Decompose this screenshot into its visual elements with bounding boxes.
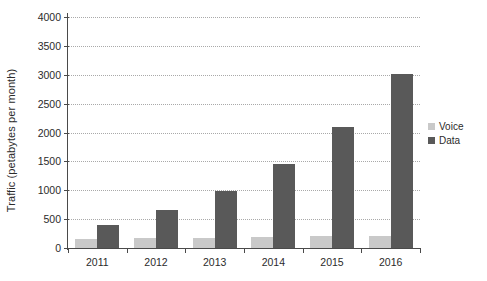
gridline: [68, 104, 420, 105]
gridline: [68, 133, 420, 134]
y-tick-mark: [64, 219, 69, 220]
y-tick-mark: [64, 104, 69, 105]
y-tick-mark: [64, 46, 69, 47]
x-tick-mark: [303, 248, 304, 253]
bar-voice-2015: [310, 236, 332, 248]
x-tick-mark: [420, 248, 421, 253]
legend-swatch-voice: [428, 123, 435, 130]
gridline: [68, 46, 420, 47]
y-tick-label: 2000: [38, 127, 61, 139]
y-tick-label: 1000: [38, 184, 61, 196]
y-tick-label: 0: [55, 242, 61, 254]
bar-data-2014: [273, 164, 295, 248]
legend-swatch-data: [428, 137, 435, 144]
x-tick-mark: [127, 248, 128, 253]
bar-data-2011: [97, 225, 119, 248]
x-tick-label-2013: 2013: [203, 256, 226, 268]
legend-label-data: Data: [439, 135, 460, 146]
y-tick-mark: [64, 75, 69, 76]
gridline: [68, 75, 420, 76]
legend-item-data: Data: [428, 133, 463, 147]
legend-item-voice: Voice: [428, 119, 463, 133]
y-tick-label: 3000: [38, 69, 61, 81]
bar-voice-2011: [75, 239, 97, 248]
y-tick-label: 4000: [38, 11, 61, 23]
y-axis-title: Traffic (petabytes per month): [0, 0, 22, 281]
y-tick-label: 500: [43, 213, 61, 225]
bar-data-2012: [156, 210, 178, 248]
x-tick-mark: [185, 248, 186, 253]
y-tick-mark: [64, 133, 69, 134]
legend-label-voice: Voice: [439, 121, 463, 132]
bar-voice-2012: [134, 238, 156, 248]
gridline: [68, 17, 420, 18]
y-tick-label: 1500: [38, 155, 61, 167]
bar-voice-2014: [251, 237, 273, 248]
chart-figure: Traffic (petabytes per month) 0500100015…: [0, 0, 487, 281]
x-tick-label-2011: 2011: [86, 256, 109, 268]
bar-data-2015: [332, 127, 354, 248]
bar-voice-2013: [193, 238, 215, 248]
y-tick-mark: [64, 17, 69, 18]
y-tick-label: 2500: [38, 98, 61, 110]
bar-data-2016: [391, 74, 413, 248]
x-tick-mark: [244, 248, 245, 253]
chart-legend: VoiceData: [428, 119, 463, 147]
gridline: [68, 219, 420, 220]
x-tick-label-2014: 2014: [262, 256, 285, 268]
gridline: [68, 161, 420, 162]
x-axis-line: [64, 248, 421, 249]
x-tick-mark: [361, 248, 362, 253]
bar-data-2013: [215, 191, 237, 248]
x-tick-label-2012: 2012: [144, 256, 167, 268]
plot-area: 05001000150020002500300035004000: [68, 17, 420, 248]
y-tick-mark: [64, 190, 69, 191]
x-tick-label-2015: 2015: [320, 256, 343, 268]
y-tick-label: 3500: [38, 40, 61, 52]
y-tick-mark: [64, 161, 69, 162]
bar-voice-2016: [369, 236, 391, 248]
x-tick-mark: [68, 248, 69, 253]
gridline: [68, 190, 420, 191]
x-tick-label-2016: 2016: [379, 256, 402, 268]
